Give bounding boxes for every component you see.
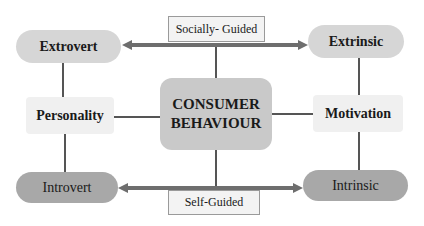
extrovert-node: Extrovert [16,30,121,63]
extrinsic-node: Extrinsic [308,25,404,58]
socially-guided-text: Socially- Guided [176,22,258,37]
personality-text: Personality [36,108,104,124]
introvert-node: Introvert [16,172,118,203]
center-line2: BEHAVIOUR [171,114,262,133]
intrinsic-node: Intrinsic [303,170,408,201]
socially-guided-label: Socially- Guided [168,16,265,42]
consumer-behaviour-node: CONSUMER BEHAVIOUR [160,78,272,150]
self-guided-label: Self-Guided [168,190,260,215]
motivation-node: Motivation [313,95,403,132]
center-line1: CONSUMER [172,95,260,114]
extrovert-text: Extrovert [39,39,97,55]
introvert-text: Introvert [43,180,92,196]
personality-node: Personality [26,97,114,134]
extrinsic-text: Extrinsic [329,34,383,50]
self-guided-text: Self-Guided [185,195,244,210]
motivation-text: Motivation [325,106,391,122]
intrinsic-text: Intrinsic [332,178,379,194]
